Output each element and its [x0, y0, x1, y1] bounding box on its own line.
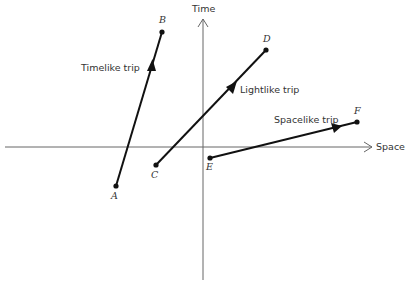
- lightlike-arrow-icon: [226, 81, 237, 94]
- point-c-label: C: [151, 169, 158, 180]
- timelike-trip-label: Timelike trip: [81, 62, 140, 73]
- timelike-arrow-icon: [147, 59, 156, 71]
- point-d: [263, 47, 268, 52]
- point-f: [354, 119, 359, 124]
- spacelike-trip: [207, 119, 359, 160]
- axes: [5, 19, 372, 280]
- point-c: [153, 162, 158, 167]
- point-f-label: F: [354, 105, 361, 116]
- lightlike-trip: [153, 47, 268, 167]
- point-a: [113, 183, 118, 188]
- space-axis-label: Space: [376, 141, 405, 152]
- point-e-label: E: [206, 161, 213, 172]
- lightlike-trip-label: Lightlike trip: [240, 84, 299, 95]
- point-e: [207, 155, 212, 160]
- point-d-label: D: [263, 33, 271, 44]
- spacetime-diagram-canvas: [0, 0, 406, 286]
- spacelike-trip-label: Spacelike trip: [274, 114, 339, 125]
- point-b: [159, 29, 164, 34]
- point-a-label: A: [111, 190, 118, 201]
- point-b-label: B: [159, 14, 166, 25]
- time-axis-label: Time: [192, 3, 215, 14]
